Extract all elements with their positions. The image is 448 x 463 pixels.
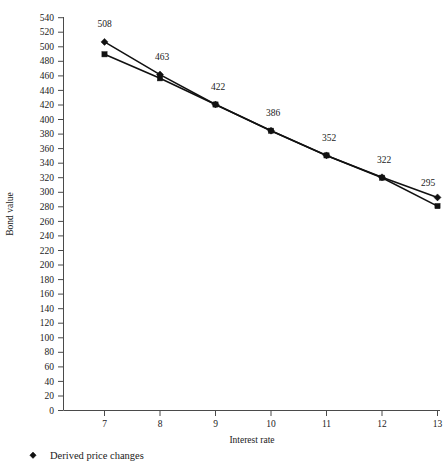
x-axis-ticks [105, 411, 438, 417]
y-tick-label: 0 [49, 406, 54, 416]
y-tick-label: 520 [40, 27, 55, 37]
y-tick-label: 120 [40, 318, 55, 328]
y-tick-label: 480 [40, 56, 55, 66]
data-point-label: 463 [155, 52, 170, 62]
data-point-label: 422 [211, 82, 226, 92]
y-tick-label: 220 [40, 246, 55, 256]
x-axis-tick-labels: 7 8 9 10 11 12 13 [102, 419, 442, 429]
x-tick-label: 7 [102, 419, 107, 429]
data-point-marker [102, 52, 107, 57]
data-point-label: 508 [97, 19, 112, 29]
y-tick-label: 540 [40, 13, 55, 23]
y-tick-label: 320 [40, 173, 55, 183]
y-tick-label: 240 [40, 231, 55, 241]
y-tick-label: 100 [40, 333, 55, 343]
y-tick-label: 400 [40, 115, 55, 125]
y-tick-label: 140 [40, 304, 55, 314]
x-tick-label: 12 [377, 419, 387, 429]
y-tick-label: 420 [40, 100, 55, 110]
y-tick-label: 80 [45, 347, 55, 357]
y-tick-label: 300 [40, 187, 55, 197]
x-tick-label: 13 [433, 419, 443, 429]
data-point-labels: 508 463 422 386 352 322 295 [97, 19, 435, 188]
data-point-label: 322 [377, 155, 392, 165]
y-tick-label: 40 [45, 377, 55, 387]
x-axis-title: Interest rate [229, 435, 274, 445]
y-axis-ticks [58, 18, 64, 411]
x-tick-label: 10 [266, 419, 276, 429]
chart-svg: 0 20 40 60 80 100 120 140 160 180 200 22… [0, 0, 448, 463]
x-tick-label: 8 [158, 419, 163, 429]
y-tick-label: 380 [40, 129, 55, 139]
y-axis-title: Bond value [5, 192, 15, 236]
data-point-marker [435, 204, 440, 209]
y-tick-label: 180 [40, 275, 55, 285]
y-tick-label: 500 [40, 42, 55, 52]
x-tick-label: 9 [213, 419, 218, 429]
data-point-label: 386 [266, 108, 281, 118]
data-point-marker [101, 38, 108, 45]
y-tick-label: 360 [40, 144, 55, 154]
data-point-label: 295 [421, 178, 436, 188]
y-tick-label: 260 [40, 217, 55, 227]
y-tick-label: 280 [40, 202, 55, 212]
chart-legend: Derived price changes [30, 450, 144, 461]
y-tick-label: 440 [40, 86, 55, 96]
series-markers-derived-price-changes [101, 38, 441, 201]
series-line-derived-price-changes [105, 42, 438, 198]
legend-diamond-icon [30, 452, 36, 458]
legend-item-label: Derived price changes [50, 450, 144, 461]
y-axis-tick-labels: 0 20 40 60 80 100 120 140 160 180 200 22… [40, 13, 55, 416]
data-point-label: 352 [322, 133, 337, 143]
y-tick-label: 200 [40, 260, 55, 270]
data-point-marker [434, 194, 441, 201]
y-tick-label: 340 [40, 158, 55, 168]
bond-value-chart: 0 20 40 60 80 100 120 140 160 180 200 22… [0, 0, 448, 463]
y-tick-label: 160 [40, 289, 55, 299]
y-tick-label: 460 [40, 71, 55, 81]
x-tick-label: 11 [322, 419, 331, 429]
y-tick-label: 60 [45, 362, 55, 372]
y-tick-label: 20 [45, 391, 55, 401]
